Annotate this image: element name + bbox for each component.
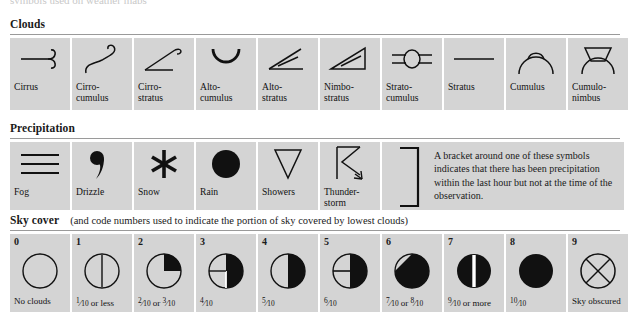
sky-cell-5[interactable]: 5 6⁄10: [320, 234, 380, 312]
cloud-cell-cumulus[interactable]: Cumulus: [506, 38, 566, 110]
sky-cover-divider: [10, 230, 620, 231]
sky-label: 6⁄10: [324, 296, 337, 310]
sky-label: 10⁄10: [510, 296, 526, 310]
bracket-note-text: A bracket around one of these symbols in…: [434, 149, 618, 203]
rain-icon: [196, 142, 256, 186]
precip-label: Thunder- storm: [324, 187, 360, 208]
cloud-label: Cumulus: [510, 82, 545, 93]
sky-cover-title: Sky cover: [10, 214, 59, 226]
cirrus-icon: [10, 38, 70, 80]
sky-cover-heading-line: Sky cover (and code numbers used to indi…: [10, 210, 628, 228]
stratocumulus-icon: [382, 38, 442, 80]
cloud-label: Cirro- stratus: [138, 82, 163, 103]
precip-cell-fog[interactable]: Fog: [10, 142, 70, 210]
sky-cell-0[interactable]: 0 No clouds: [10, 234, 70, 312]
bracket-note-cell: A bracket around one of these symbols in…: [382, 142, 624, 210]
precip-label: Rain: [200, 187, 218, 198]
sky-cell-8[interactable]: 8 10⁄10: [506, 234, 566, 312]
cloud-cell-cirrocumulus[interactable]: Cirro- cumulus: [72, 38, 132, 110]
cloud-label: Cumulo- nimbus: [572, 82, 606, 103]
precip-cell-rain[interactable]: Rain: [196, 142, 256, 210]
sky-label: 4⁄10: [200, 296, 213, 310]
precipitation-title: Precipitation: [10, 122, 75, 134]
precip-label: Showers: [262, 187, 295, 198]
precip-label: Snow: [138, 187, 160, 198]
cloud-label: Stratus: [448, 82, 475, 93]
sky-label: 1⁄10 or less: [76, 296, 114, 310]
cloud-cell-stratocumulus[interactable]: Strato- cumulus: [382, 38, 442, 110]
sky-0-icon: [10, 246, 70, 296]
sky-6-icon: [382, 246, 442, 296]
altocumulus-icon: [196, 38, 256, 80]
snow-icon: [134, 142, 194, 186]
sky-cover-note: (and code numbers used to indicate the p…: [70, 215, 408, 226]
nimbostratus-icon: [320, 38, 380, 80]
clouds-heading-line: Clouds: [10, 14, 628, 32]
sky-label: 7⁄10 or 8⁄10: [386, 296, 423, 310]
cloud-label: Alto- cumulus: [200, 82, 233, 103]
precipitation-divider: [10, 138, 620, 139]
sky-2-icon: [134, 246, 194, 296]
cumulonimbus-icon: [568, 38, 628, 80]
fog-icon: [10, 142, 70, 186]
cumulus-icon: [506, 38, 566, 80]
clouds-section: Clouds Cirrus Cirro- cumulus: [10, 14, 628, 110]
sky-cell-2[interactable]: 2 2⁄10 or 3⁄10: [134, 234, 194, 312]
cloud-label: Nimbo- stratus: [324, 82, 354, 103]
sky-7-icon: [444, 246, 504, 296]
sky-cell-7[interactable]: 7 9⁄10 or more: [444, 234, 504, 312]
cloud-label: Strato- cumulus: [386, 82, 419, 103]
drizzle-icon: [72, 142, 132, 186]
sky-label: 9⁄10 or more: [448, 296, 491, 310]
showers-icon: [258, 142, 318, 186]
precipitation-section: Precipitation Fog Drizzle: [10, 118, 624, 210]
sky-label: No clouds: [14, 296, 51, 307]
sky-cover-section: Sky cover (and code numbers used to indi…: [10, 210, 628, 312]
clouds-row: Cirrus Cirro- cumulus Cirro- stratus: [10, 38, 628, 110]
precip-cell-snow[interactable]: Snow: [134, 142, 194, 210]
sky-label: 5⁄10: [262, 296, 275, 310]
cloud-cell-nimbostratus[interactable]: Nimbo- stratus: [320, 38, 380, 110]
precip-label: Drizzle: [76, 187, 104, 198]
cloud-cell-altostratus[interactable]: Alto- stratus: [258, 38, 318, 110]
sky-label: 2⁄10 or 3⁄10: [138, 296, 175, 310]
clouds-divider: [10, 34, 620, 35]
cloud-label: Cirro- cumulus: [76, 82, 109, 103]
sky-cover-row: 0 No clouds 1 1⁄10 or less 2: [10, 234, 628, 312]
sky-cell-6[interactable]: 6 7⁄10 or 8⁄10: [382, 234, 442, 312]
sky-9-icon: [568, 246, 628, 296]
sky-3-icon: [196, 246, 256, 296]
precip-label: Fog: [14, 187, 29, 198]
cloud-cell-stratus[interactable]: Stratus: [444, 38, 504, 110]
precip-cell-showers[interactable]: Showers: [258, 142, 318, 210]
precipitation-heading-line: Precipitation: [10, 118, 624, 136]
thunderstorm-icon: [320, 142, 380, 186]
cirrocumulus-icon: [72, 38, 132, 80]
sky-cell-9[interactable]: 9 Sky obscured: [568, 234, 628, 312]
cloud-cell-cumulonimbus[interactable]: Cumulo- nimbus: [568, 38, 628, 110]
cloud-label: Cirrus: [14, 82, 38, 93]
sky-cell-3[interactable]: 3 4⁄10: [196, 234, 256, 312]
sky-label: Sky obscured: [572, 296, 621, 307]
top-cutoff-text: symbols used on weather maps: [10, 0, 310, 4]
cirrostratus-icon: [134, 38, 194, 80]
cloud-label: Alto- stratus: [262, 82, 287, 103]
bracket-icon: [396, 146, 426, 208]
sky-cell-1[interactable]: 1 1⁄10 or less: [72, 234, 132, 312]
sky-cell-4[interactable]: 4 5⁄10: [258, 234, 318, 312]
sky-8-icon: [506, 246, 566, 296]
stratus-icon: [444, 38, 504, 80]
precip-cell-thunderstorm[interactable]: Thunder- storm: [320, 142, 380, 210]
precip-cell-drizzle[interactable]: Drizzle: [72, 142, 132, 210]
precipitation-row: Fog Drizzle Snow Rain: [10, 142, 624, 210]
sky-1-icon: [72, 246, 132, 296]
cloud-cell-cirrostratus[interactable]: Cirro- stratus: [134, 38, 194, 110]
sky-5-icon: [320, 246, 380, 296]
cloud-cell-altocumulus[interactable]: Alto- cumulus: [196, 38, 256, 110]
sky-4-icon: [258, 246, 318, 296]
clouds-title: Clouds: [10, 18, 45, 30]
altostratus-icon: [258, 38, 318, 80]
cloud-cell-cirrus[interactable]: Cirrus: [10, 38, 70, 110]
